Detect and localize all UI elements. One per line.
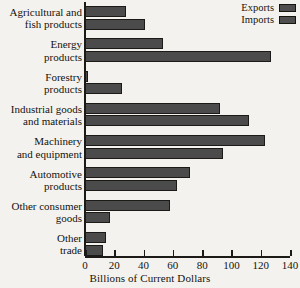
- category-label: Other trade: [0, 232, 82, 256]
- x-tick-label: 140: [282, 259, 299, 271]
- bar-pair: [85, 163, 300, 195]
- x-axis-title: Billions of Current Dollars: [0, 272, 300, 284]
- bar-exports: [85, 232, 106, 243]
- x-tick-label: 80: [197, 259, 208, 271]
- bar-group: Other consumer goods: [0, 196, 300, 228]
- bar-imports: [85, 212, 110, 223]
- x-axis-line: [85, 256, 290, 258]
- bar-group: Agricultural and fish products: [0, 2, 300, 34]
- category-groups: Agricultural and fish products Energy pr…: [0, 2, 300, 260]
- category-label: Automotive products: [0, 167, 82, 191]
- bar-imports: [85, 19, 145, 30]
- bar-imports: [85, 148, 223, 159]
- x-tick-label: 20: [109, 259, 120, 271]
- x-tick: [173, 250, 175, 256]
- bar-group: Automotive products: [0, 163, 300, 195]
- category-label: Other consumer goods: [0, 200, 82, 224]
- bar-imports: [85, 51, 271, 62]
- bar-exports: [85, 200, 170, 211]
- x-tick-label: 40: [138, 259, 149, 271]
- x-tick: [202, 250, 204, 256]
- x-tick: [114, 250, 116, 256]
- bar-exports: [85, 103, 220, 114]
- bar-imports: [85, 115, 249, 126]
- bar-pair: [85, 196, 300, 228]
- x-tick-label: 0: [82, 259, 88, 271]
- bar-exports: [85, 167, 190, 178]
- bar-imports: [85, 245, 103, 256]
- x-tick: [290, 250, 292, 256]
- category-label: Industrial goods and materials: [0, 103, 82, 127]
- bar-exports: [85, 38, 163, 49]
- bar-pair: [85, 131, 300, 163]
- bar-group: Machinery and equipment: [0, 131, 300, 163]
- bar-imports: [85, 83, 122, 94]
- x-tick-label: 100: [223, 259, 240, 271]
- x-tick-label: 120: [252, 259, 269, 271]
- category-label: Forestry products: [0, 71, 82, 95]
- x-tick: [261, 250, 263, 256]
- bar-pair: [85, 2, 300, 34]
- bar-imports: [85, 180, 177, 191]
- bar-pair: [85, 99, 300, 131]
- x-tick: [231, 250, 233, 256]
- bar-exports: [85, 135, 265, 146]
- bar-exports: [85, 6, 126, 17]
- bar-group: Energy products: [0, 34, 300, 66]
- bar-pair: [85, 67, 300, 99]
- bar-group: Industrial goods and materials: [0, 99, 300, 131]
- x-tick: [85, 250, 87, 256]
- bar-chart: Exports Imports Agricultural and fish pr…: [0, 0, 300, 288]
- bar-pair: [85, 34, 300, 66]
- x-tick-label: 60: [167, 259, 178, 271]
- category-label: Agricultural and fish products: [0, 6, 82, 30]
- y-axis-line: [84, 2, 86, 256]
- bar-group: Forestry products: [0, 67, 300, 99]
- category-label: Energy products: [0, 38, 82, 62]
- x-tick: [144, 250, 146, 256]
- category-label: Machinery and equipment: [0, 135, 82, 159]
